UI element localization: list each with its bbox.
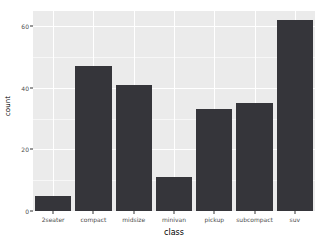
x-tick-label-suv: suv [290,216,300,223]
grid-line-vertical [53,11,54,211]
x-axis-title-label: class [164,228,184,237]
x-tick-mark [254,211,255,214]
bar-2seater [35,196,71,211]
x-tick-label-midsize: midsize [122,216,145,223]
x-axis-title: class [33,228,315,237]
x-tick-mark [53,211,54,214]
bar-chart: count 0204060 2seatercompactmidsizeminiv… [0,0,328,246]
y-axis-title-label: count [4,95,12,115]
y-tick-label: 40 [21,84,29,91]
x-tick-label-2seater: 2seater [42,216,65,223]
bar-compact [75,66,111,211]
x-tick-label-subcompact: subcompact [236,216,273,223]
x-tick-label-minivan: minivan [162,216,186,223]
bar-midsize [116,85,152,211]
y-tick-label: 60 [21,23,29,30]
bar-pickup [196,109,232,211]
x-tick-mark [214,211,215,214]
x-tick-mark [174,211,175,214]
plot-panel [33,11,315,211]
x-tick-mark [133,211,134,214]
x-tick-label-compact: compact [80,216,106,223]
bar-suv [277,20,313,211]
x-tick-mark [93,211,94,214]
x-tick-label-pickup: pickup [204,216,224,223]
y-axis: 0204060 [13,0,33,246]
x-tick-mark [294,211,295,214]
bar-minivan [156,177,192,211]
bar-subcompact [236,103,272,211]
y-tick-label: 20 [21,146,29,153]
y-tick-label: 0 [25,208,29,215]
